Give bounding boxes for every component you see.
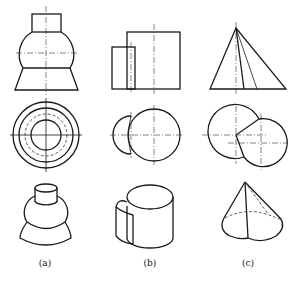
front-view-b: [112, 24, 180, 94]
label-c: (c): [242, 258, 254, 268]
column-b: (b): [110, 24, 183, 268]
top-view-a: [10, 98, 82, 172]
isometric-a: [20, 184, 71, 245]
isometric-b: [116, 185, 173, 248]
front-view-a: [15, 6, 78, 95]
label-b: (b): [144, 258, 157, 268]
front-view-c: [210, 22, 286, 94]
column-a: (a): [10, 6, 82, 268]
isometric-c: [222, 182, 283, 241]
label-a: (a): [39, 258, 51, 268]
top-view-b: [110, 105, 183, 165]
top-view-c: [202, 105, 288, 170]
column-c: (c): [202, 22, 288, 268]
projection-drawing: (a) (b): [0, 0, 302, 281]
